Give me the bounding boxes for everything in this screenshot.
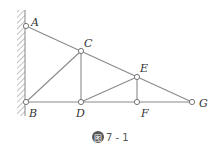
figure-caption: 图 7 - 1 (92, 131, 129, 143)
truss-diagram: A B C D E F G 图 7 - 1 (0, 0, 219, 154)
joint-F (134, 99, 139, 104)
caption-number: 7 - 1 (106, 132, 129, 143)
joint-C (78, 48, 83, 53)
caption-badge-text: 图 (94, 134, 102, 143)
joint-B (23, 99, 28, 104)
label-A: A (30, 16, 39, 29)
label-F: F (140, 107, 149, 120)
label-G: G (199, 97, 208, 110)
truss-members (26, 26, 192, 102)
member-BC (26, 51, 81, 102)
joint-D (78, 99, 83, 104)
member-DE (81, 77, 137, 102)
label-E: E (139, 62, 148, 75)
label-D: D (75, 107, 85, 120)
joint-G (189, 99, 194, 104)
label-B: B (28, 107, 37, 120)
label-C: C (84, 37, 93, 50)
member-AG (26, 26, 192, 102)
joint-E (134, 74, 139, 79)
joint-A (23, 23, 28, 28)
